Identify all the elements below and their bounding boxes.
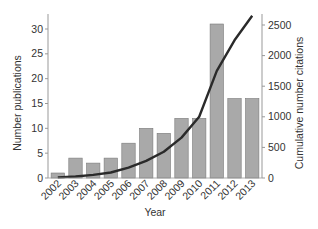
bar-2010 xyxy=(193,118,206,178)
y-tick-label: 20 xyxy=(31,72,43,84)
y-tick-label: 0 xyxy=(37,172,43,184)
bar-2005 xyxy=(104,158,117,178)
y2-axis-label: Cumulative number citations xyxy=(293,37,305,169)
chart: 0510152025300500100015002000250020022003… xyxy=(0,0,318,229)
x-tick-label: 2013 xyxy=(233,177,258,202)
y-tick-label: 15 xyxy=(31,97,43,109)
y-tick-label: 25 xyxy=(31,47,43,59)
y2-tick-label: 0 xyxy=(268,172,274,184)
bar-series xyxy=(51,24,259,178)
y2-tick-label: 1000 xyxy=(268,110,292,122)
bar-2011 xyxy=(210,24,223,178)
y-tick-label: 5 xyxy=(37,147,43,159)
x-axis-label: Year xyxy=(144,206,166,218)
y2-tick-label: 2000 xyxy=(268,49,292,61)
y2-tick-label: 2500 xyxy=(268,19,292,31)
bar-2012 xyxy=(228,99,241,179)
bar-2006 xyxy=(122,143,135,178)
bar-2007 xyxy=(140,128,153,178)
bar-2009 xyxy=(175,118,188,178)
y-tick-label: 10 xyxy=(31,122,43,134)
y2-tick-label: 500 xyxy=(268,141,286,153)
bar-2008 xyxy=(157,133,170,178)
bar-2013 xyxy=(246,99,259,179)
y-axis-label: Number publications xyxy=(11,55,23,151)
y2-tick-label: 1500 xyxy=(268,80,292,92)
y-tick-label: 30 xyxy=(31,23,43,35)
